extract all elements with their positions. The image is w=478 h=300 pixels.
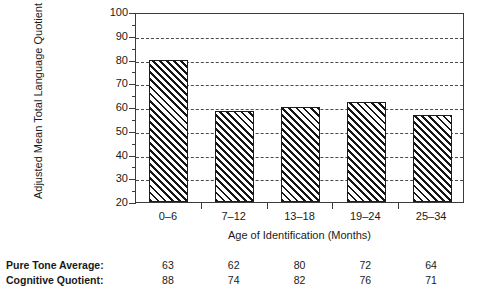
row-cell: 64: [411, 258, 451, 272]
row-cell: 74: [214, 273, 254, 287]
chart-figure: Adjusted Mean Total Language Quotient 20…: [0, 0, 478, 248]
row-cell: 62: [214, 258, 254, 272]
plot-area: [135, 13, 464, 203]
row-cell: 76: [345, 273, 385, 287]
x-tick-label-13–18: 13–18: [265, 210, 335, 222]
row-cell: 71: [411, 273, 451, 287]
y-tick-label-60: 60: [88, 102, 128, 113]
y-tick-20: [129, 203, 136, 204]
x-tick-2: [267, 203, 268, 209]
row-cell: 82: [280, 273, 320, 287]
x-tick-label-0–6: 0–6: [133, 210, 203, 222]
x-axis-title: Age of Identification (Months): [135, 229, 464, 241]
bar-0–6: [149, 60, 188, 203]
gridline-90: [136, 38, 463, 39]
y-tick-label-80: 80: [88, 55, 128, 66]
y-tick-label-20: 20: [88, 197, 128, 208]
row-cell: 72: [345, 258, 385, 272]
y-tick-label-50: 50: [88, 126, 128, 137]
y-tick-label-30: 30: [88, 173, 128, 184]
bar-7–12: [215, 111, 254, 202]
y-tick-label-100: 100: [88, 7, 128, 18]
table-row: Cognitive Quotient:8874827671: [0, 273, 478, 288]
row-label: Pure Tone Average:: [6, 258, 104, 272]
x-tick-label-7–12: 7–12: [199, 210, 269, 222]
y-tick-label-70: 70: [88, 78, 128, 89]
bar-13–18: [281, 107, 320, 202]
row-cell: 80: [280, 258, 320, 272]
row-cell: 63: [148, 258, 188, 272]
y-tick-label-40: 40: [88, 150, 128, 161]
x-tick-3: [332, 203, 333, 209]
bar-19–24: [347, 102, 386, 202]
x-tick-label-19–24: 19–24: [330, 210, 400, 222]
x-tick-label-25–34: 25–34: [396, 210, 466, 222]
y-axis: 2030405060708090100: [0, 0, 135, 248]
row-cell: 88: [148, 273, 188, 287]
bar-25–34: [413, 115, 452, 202]
x-tick-1: [201, 203, 202, 209]
x-tick-4: [398, 203, 399, 209]
row-label: Cognitive Quotient:: [6, 273, 103, 287]
annotation-table: Pure Tone Average:6362807264Cognitive Qu…: [0, 258, 478, 298]
table-row: Pure Tone Average:6362807264: [0, 258, 478, 273]
y-tick-label-90: 90: [88, 31, 128, 42]
